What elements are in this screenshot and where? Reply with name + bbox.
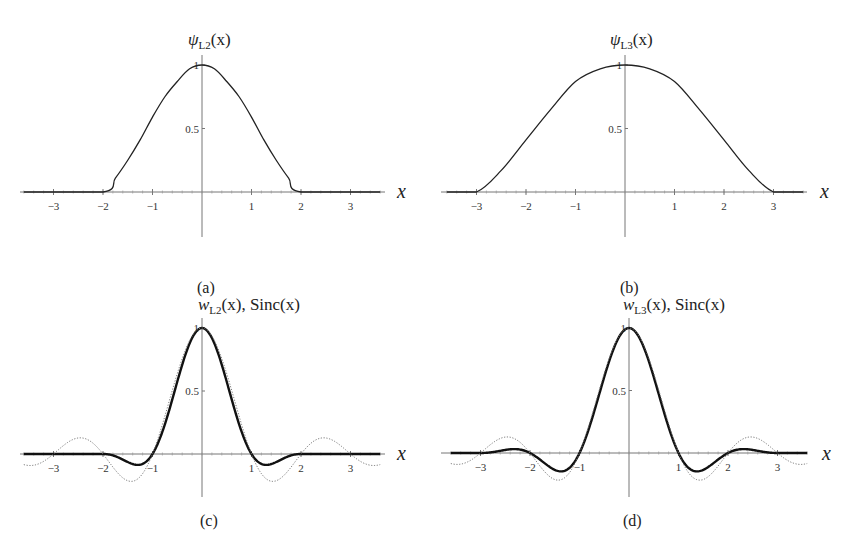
y-tick-label: 0.5: [185, 123, 199, 135]
x-tick-label: 3: [775, 461, 781, 473]
x-tick-label: −3: [475, 461, 487, 473]
panel-c-x-axis-label: x: [396, 442, 406, 464]
panel-c-title: wL2(x), Sinc(x): [198, 295, 300, 316]
x-tick-label: 3: [348, 200, 354, 212]
panel-b-axes: −3−2−11230.51: [441, 55, 807, 237]
x-tick-label: 2: [298, 200, 304, 212]
panel-a-x-axis-label: x: [396, 180, 406, 202]
x-tick-label: 1: [249, 462, 255, 474]
panel-b-x-axis-label: x: [819, 180, 829, 202]
panel-d-x-axis-label: x: [821, 442, 831, 464]
panel-a-psi-l2: ψL2(x) −3−2−11230.51 x (a): [20, 30, 406, 297]
x-tick-label: −1: [574, 461, 586, 473]
y-tick-label: 0.5: [185, 385, 199, 397]
y-tick-label: 0.5: [608, 123, 622, 135]
x-tick-label: 2: [725, 461, 731, 473]
panel-a-title: ψL2(x): [188, 30, 231, 51]
x-tick-label: 2: [298, 462, 304, 474]
x-tick-label: −2: [520, 200, 532, 212]
x-tick-label: −3: [471, 200, 483, 212]
x-tick-label: 3: [771, 200, 777, 212]
figure: ψL2(x) −3−2−11230.51 x (a) ψL3(x) −3−2−1…: [0, 0, 847, 548]
panel-a-axes: −3−2−11230.51: [20, 55, 385, 237]
x-tick-label: 3: [348, 462, 354, 474]
y-tick-label: 0.5: [612, 385, 626, 397]
x-tick-label: 1: [249, 200, 255, 212]
x-tick-label: 1: [672, 200, 678, 212]
panel-d-title: wL3(x), Sinc(x): [623, 295, 725, 316]
panel-d-tag: (d): [623, 512, 642, 530]
x-tick-label: −1: [570, 200, 582, 212]
panel-b-psi-l3: ψL3(x) −3−2−11230.51 x (b): [441, 30, 829, 297]
x-tick-label: −3: [48, 200, 60, 212]
x-tick-label: −2: [97, 462, 109, 474]
x-tick-label: −1: [147, 200, 159, 212]
panel-b-title: ψL3(x): [610, 30, 653, 51]
panel-c-w-l2-sinc: wL2(x), Sinc(x) −3−2−11230.51 x (c): [20, 295, 406, 530]
panel-c-axes: −3−2−11230.51: [20, 318, 385, 497]
x-tick-label: 1: [676, 461, 682, 473]
x-tick-label: −2: [524, 461, 536, 473]
panel-d-axes: −3−2−11230.51: [441, 318, 807, 497]
panel-d-w-l3-sinc: wL3(x), Sinc(x) −3−2−11230.51 x (d): [441, 295, 831, 530]
x-tick-label: −3: [48, 462, 60, 474]
x-tick-label: −2: [97, 200, 109, 212]
panel-c-tag: (c): [200, 512, 218, 530]
x-tick-label: 2: [721, 200, 727, 212]
